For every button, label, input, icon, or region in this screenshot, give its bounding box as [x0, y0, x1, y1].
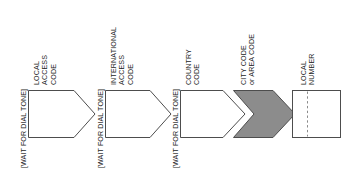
- dialing-sequence-diagram: [WAIT FOR DIAL TONE] LOCAL ACCESS CODE […: [0, 0, 353, 179]
- shape-local-number: [293, 91, 341, 138]
- shape-country-code: [181, 91, 246, 138]
- shape-international-access-code: [106, 91, 172, 138]
- shape-local-access-code: [29, 91, 96, 138]
- diagram-shapes-layer: [0, 0, 353, 179]
